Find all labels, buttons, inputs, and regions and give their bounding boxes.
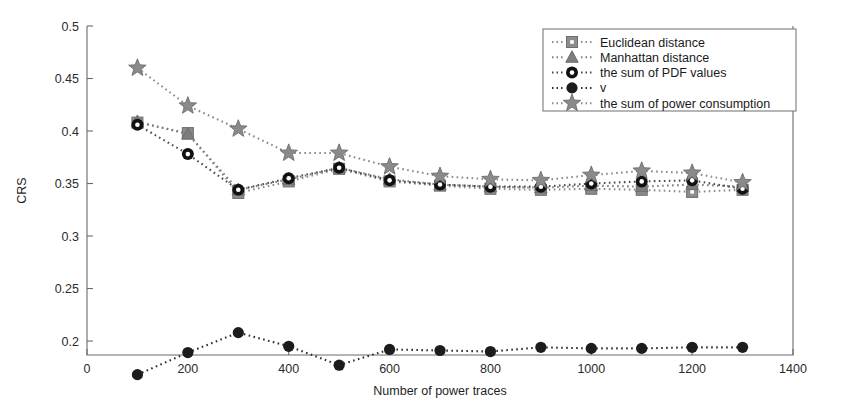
star-marker (330, 144, 348, 161)
y-axis-tick-label: 0.2 (62, 335, 79, 349)
legend-label: Euclidean distance (600, 36, 705, 50)
circle-open-marker-center (438, 182, 443, 187)
star-marker (280, 144, 298, 161)
data-point-circle-filled (535, 342, 546, 353)
circle-open-marker-center (186, 152, 191, 157)
x-axis-tick-label: 1200 (678, 362, 706, 376)
legend-item-0[interactable]: Euclidean distance (552, 36, 705, 50)
data-point-circle-filled (687, 342, 698, 353)
circle-filled-marker (434, 345, 445, 356)
y-axis-title: CRS (15, 177, 29, 203)
legend-label: the sum of power consumption (600, 97, 770, 111)
chart-figure: 02004006008001000120014000.20.250.30.350… (0, 0, 847, 412)
y-axis-tick-label: 0.35 (55, 177, 79, 191)
star-marker (230, 120, 248, 137)
data-point-circle-filled (182, 347, 193, 358)
x-axis-tick-label: 200 (177, 362, 198, 376)
data-point-circle-open (333, 162, 345, 174)
circle-open-marker-center (135, 122, 140, 127)
chart-legend: Euclidean distanceManhattan distancethe … (543, 29, 796, 111)
circle-filled-marker (132, 369, 143, 380)
circle-filled-marker (485, 346, 496, 357)
x-axis-tick-label: 800 (480, 362, 501, 376)
circle-filled-marker (182, 347, 193, 358)
circle-filled-marker (233, 327, 244, 338)
circle-filled-marker (384, 344, 395, 355)
x-axis-tick-label: 1000 (577, 362, 605, 376)
data-point-circle-filled (586, 343, 597, 354)
circle-open-marker-center (286, 176, 291, 181)
circle-open-marker-center (488, 184, 493, 189)
data-point-circle-open (131, 119, 143, 131)
square-marker-center (570, 40, 574, 44)
data-point-star (129, 59, 147, 76)
data-point-circle-filled (434, 345, 445, 356)
data-point-circle-filled (566, 82, 577, 93)
data-point-circle-filled (636, 343, 647, 354)
circle-filled-marker (636, 343, 647, 354)
series-3 (132, 327, 748, 380)
y-axis-tick-label: 0.4 (62, 125, 79, 139)
circle-filled-marker (334, 360, 345, 371)
x-axis-title: Number of power traces (373, 384, 506, 398)
data-point-circle-open (182, 148, 194, 160)
y-axis-tick-label: 0.3 (62, 230, 79, 244)
y-axis-tick-label: 0.45 (55, 72, 79, 86)
data-point-star (280, 144, 298, 161)
circle-filled-marker (687, 342, 698, 353)
y-axis-tick-label: 0.5 (62, 20, 79, 34)
data-point-circle-open (232, 184, 244, 196)
series-2 (131, 119, 748, 196)
data-point-circle-filled (233, 327, 244, 338)
data-point-star (230, 120, 248, 137)
circle-open-marker-center (387, 178, 392, 183)
circle-filled-marker (737, 342, 748, 353)
y-axis-tick-label: 0.25 (55, 282, 79, 296)
circle-filled-marker (566, 82, 577, 93)
circle-open-marker-center (639, 179, 644, 184)
x-axis-tick-label: 600 (379, 362, 400, 376)
circle-filled-marker (283, 341, 294, 352)
legend-label: the sum of PDF values (600, 66, 726, 80)
x-axis-tick-label: 400 (278, 362, 299, 376)
star-marker (129, 59, 147, 76)
data-point-circle-filled (334, 360, 345, 371)
data-point-star (179, 97, 197, 114)
circle-open-marker-center (337, 165, 342, 170)
circle-open-marker-center (236, 188, 241, 193)
circle-filled-marker (535, 342, 546, 353)
star-marker (179, 97, 197, 114)
data-point-square (567, 37, 578, 48)
circle-open-marker-center (690, 178, 695, 183)
data-point-star (330, 144, 348, 161)
data-point-circle-open (283, 172, 295, 184)
data-point-circle-filled (384, 344, 395, 355)
data-point-circle-filled (485, 346, 496, 357)
data-point-circle-filled (283, 341, 294, 352)
circle-open-marker-center (589, 181, 594, 186)
legend-label: v (600, 81, 607, 95)
circle-open-marker-center (570, 70, 575, 75)
x-axis-tick-label: 1400 (779, 362, 807, 376)
chart-svg: 02004006008001000120014000.20.250.30.350… (0, 0, 847, 412)
circle-filled-marker (586, 343, 597, 354)
x-axis-tick-label: 0 (84, 362, 91, 376)
data-point-circle-filled (132, 369, 143, 380)
data-point-circle-open (566, 67, 578, 79)
square-marker-center (690, 190, 694, 194)
data-point-circle-filled (737, 342, 748, 353)
data-point-circle-open (384, 174, 396, 186)
legend-label: Manhattan distance (600, 51, 709, 65)
